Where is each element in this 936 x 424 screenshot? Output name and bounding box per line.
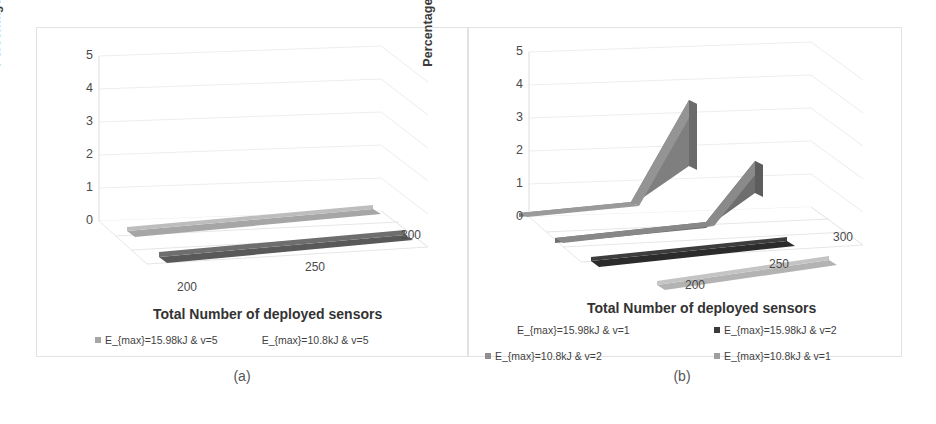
y-axis-title-b: Percentage of non-operational sensors <box>421 0 452 80</box>
legend-label-a-0: E_{max}=15.98kJ & v=5 <box>105 334 218 346</box>
y-axis-title-a: Percentage of non-operational sensors <box>0 0 20 80</box>
plot-area-a: 5 4 3 2 1 0 200 250 300 <box>81 42 441 292</box>
y-tick-b-2: 2 <box>505 143 523 157</box>
y-axis-title-a-line2: sensors <box>5 0 21 80</box>
y-tick-a-0: 0 <box>75 213 93 227</box>
x-tick-a-300: 300 <box>401 228 421 242</box>
legend-swatch-icon-b-3 <box>714 353 720 359</box>
gridlines-a <box>99 46 381 221</box>
y-axis-title-b-line2: sensors <box>437 0 453 80</box>
legend-b: E_{max}=15.98kJ & v=1 E_{max}=15.98kJ & … <box>485 324 895 362</box>
plot-area-b: 5 4 3 2 1 0 200 250 300 <box>511 38 871 288</box>
y-tick-a-1: 1 <box>75 180 93 194</box>
legend-swatch-icon-b-0 <box>507 327 513 333</box>
x-tick-a-250: 250 <box>305 260 325 274</box>
chart-panel-a: Percentage of non-operational sensors <box>36 27 468 357</box>
chart-panel-b: Percentage of non-operational sensors <box>468 27 902 357</box>
panel-caption-b: (b) <box>622 368 742 384</box>
legend-item-b-1[interactable]: E_{max}=15.98kJ & v=2 <box>692 324 895 336</box>
legend-swatch-icon-b-1 <box>714 327 720 333</box>
y-axis-title-b-line1: Percentage of non-operational <box>421 0 437 80</box>
legend-item-a-1[interactable]: E_{max}=10.8kJ & v=5 <box>252 334 369 346</box>
x-tick-b-250: 250 <box>769 257 789 271</box>
legend-label-a-1: E_{max}=10.8kJ & v=5 <box>262 334 369 346</box>
legend-swatch-icon-a-0 <box>95 337 101 343</box>
y-tick-a-5: 5 <box>75 48 93 62</box>
legend-a: E_{max}=15.98kJ & v=5 E_{max}=10.8kJ & v… <box>95 334 369 346</box>
y-tick-a-4: 4 <box>75 81 93 95</box>
series-b-3-ribbon <box>657 256 837 290</box>
x-tick-a-200: 200 <box>177 280 197 294</box>
y-tick-a-3: 3 <box>75 114 93 128</box>
plot-svg-a <box>81 42 441 292</box>
legend-label-b-1: E_{max}=15.98kJ & v=2 <box>724 324 837 336</box>
y-tick-a-2: 2 <box>75 147 93 161</box>
x-axis-title-a: Total Number of deployed sensors <box>153 306 382 322</box>
gridlines-b <box>529 42 811 217</box>
y-tick-b-3: 3 <box>505 110 523 124</box>
y-tick-b-5: 5 <box>505 44 523 58</box>
legend-label-b-0: E_{max}=15.98kJ & v=1 <box>517 324 630 336</box>
y-tick-b-1: 1 <box>505 176 523 190</box>
legend-item-b-3[interactable]: E_{max}=10.8kJ & v=1 <box>692 350 895 362</box>
panel-caption-a: (a) <box>182 368 302 384</box>
y-tick-b-4: 4 <box>505 77 523 91</box>
legend-item-a-0[interactable]: E_{max}=15.98kJ & v=5 <box>95 334 218 346</box>
legend-label-b-3: E_{max}=10.8kJ & v=1 <box>724 350 831 362</box>
x-tick-b-300: 300 <box>833 230 853 244</box>
legend-swatch-icon-a-1 <box>252 337 258 343</box>
legend-item-b-0[interactable]: E_{max}=15.98kJ & v=1 <box>485 324 688 336</box>
figure-container: Percentage of non-operational sensors <box>0 0 936 424</box>
legend-swatch-icon-b-2 <box>485 353 491 359</box>
plot-svg-b <box>511 38 881 293</box>
x-axis-title-b: Total Number of deployed sensors <box>587 300 816 316</box>
y-tick-b-0: 0 <box>505 209 523 223</box>
x-tick-b-200: 200 <box>685 278 705 292</box>
legend-label-b-2: E_{max}=10.8kJ & v=2 <box>495 350 602 362</box>
legend-item-b-2[interactable]: E_{max}=10.8kJ & v=2 <box>485 350 688 362</box>
